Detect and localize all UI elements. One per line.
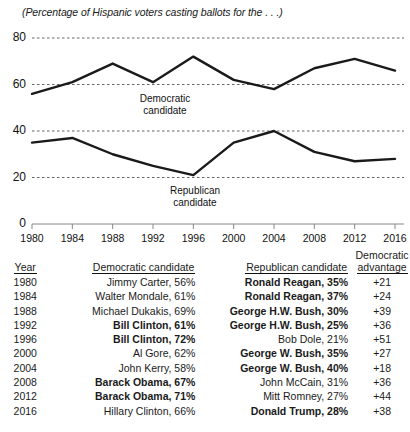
cell-democratic-candidate: Bill Clinton, 72% bbox=[50, 332, 201, 346]
cell-republican-candidate: George H.W. Bush, 30% bbox=[201, 304, 354, 318]
table-row: 1984Walter Mondale, 61%Ronald Reagan, 37… bbox=[0, 289, 410, 303]
cell-republican-candidate: George H.W. Bush, 25% bbox=[201, 318, 354, 332]
x-axis-label-1996: 1996 bbox=[173, 232, 213, 244]
table-body: 1980Jimmy Carter, 56%Ronald Reagan, 35%+… bbox=[0, 275, 410, 418]
cell-republican-candidate: Donald Trump, 28% bbox=[201, 404, 354, 418]
cell-democratic-advantage: +38 bbox=[354, 404, 410, 418]
y-axis-label-0: 0 bbox=[0, 216, 26, 230]
header-democratic-advantage: Democratic advantage bbox=[354, 250, 410, 275]
cell-republican-candidate: Ronald Reagan, 37% bbox=[201, 289, 354, 303]
cell-democratic-candidate: Bill Clinton, 61% bbox=[50, 318, 201, 332]
cell-republican-candidate: Ronald Reagan, 35% bbox=[201, 275, 354, 289]
y-axis-label-40: 40 bbox=[0, 123, 26, 137]
header-republican-candidate: Republican candidate bbox=[201, 250, 354, 275]
table-header-row: Year Democratic candidate Republican can… bbox=[0, 250, 410, 275]
annotation-line-1: Democratic bbox=[105, 93, 225, 105]
y-axis-label-20: 20 bbox=[0, 170, 26, 184]
cell-republican-candidate: Bob Dole, 21% bbox=[201, 332, 354, 346]
cell-democratic-candidate: Hillary Clinton, 66% bbox=[50, 404, 201, 418]
chart-plot-area bbox=[0, 0, 410, 250]
table-row: 2004John Kerry, 58%George W. Bush, 40%+1… bbox=[0, 361, 410, 375]
table-row: 2016Hillary Clinton, 66%Donald Trump, 28… bbox=[0, 404, 410, 418]
y-axis-label-80: 80 bbox=[0, 30, 26, 44]
x-axis-label-1988: 1988 bbox=[93, 232, 133, 244]
cell-democratic-advantage: +36 bbox=[354, 318, 410, 332]
cell-democratic-advantage: +51 bbox=[354, 332, 410, 346]
x-axis-label-2004: 2004 bbox=[254, 232, 294, 244]
cell-year: 1988 bbox=[0, 304, 50, 318]
cell-democratic-candidate: Barack Obama, 71% bbox=[50, 389, 201, 403]
cell-year: 2012 bbox=[0, 389, 50, 403]
annotation-republican: Republicancandidate bbox=[135, 185, 255, 208]
table-head: Year Democratic candidate Republican can… bbox=[0, 250, 410, 275]
cell-democratic-candidate: John Kerry, 58% bbox=[50, 361, 201, 375]
x-axis-label-1984: 1984 bbox=[52, 232, 92, 244]
cell-year: 1992 bbox=[0, 318, 50, 332]
x-axis-label-1992: 1992 bbox=[133, 232, 173, 244]
cell-democratic-advantage: +39 bbox=[354, 304, 410, 318]
y-axis-label-60: 60 bbox=[0, 77, 26, 91]
cell-democratic-candidate: Walter Mondale, 61% bbox=[50, 289, 201, 303]
election-results-table: Year Democratic candidate Republican can… bbox=[0, 250, 410, 418]
header-democratic-candidate: Democratic candidate bbox=[50, 250, 201, 275]
cell-democratic-candidate: Barack Obama, 67% bbox=[50, 375, 201, 389]
annotation-line-1: Republican bbox=[135, 185, 255, 197]
cell-year: 2004 bbox=[0, 361, 50, 375]
cell-democratic-advantage: +27 bbox=[354, 346, 410, 360]
cell-republican-candidate: John McCain, 31% bbox=[201, 375, 354, 389]
cell-democratic-advantage: +44 bbox=[354, 389, 410, 403]
cell-year: 2016 bbox=[0, 404, 50, 418]
cell-democratic-candidate: Michael Dukakis, 69% bbox=[50, 304, 201, 318]
table-row: 1996Bill Clinton, 72%Bob Dole, 21%+51 bbox=[0, 332, 410, 346]
table-row: 1992Bill Clinton, 61%George H.W. Bush, 2… bbox=[0, 318, 410, 332]
data-table-container: Year Democratic candidate Republican can… bbox=[0, 250, 410, 418]
table-row: 2000Al Gore, 62%George W. Bush, 35%+27 bbox=[0, 346, 410, 360]
cell-republican-candidate: George W. Bush, 40% bbox=[201, 361, 354, 375]
x-axis-label-2008: 2008 bbox=[294, 232, 334, 244]
cell-republican-candidate: George W. Bush, 35% bbox=[201, 346, 354, 360]
cell-democratic-advantage: +21 bbox=[354, 275, 410, 289]
table-row: 2012Barack Obama, 71%Mitt Romney, 27%+44 bbox=[0, 389, 410, 403]
annotation-line-2: candidate bbox=[105, 105, 225, 117]
x-axis-label-2000: 2000 bbox=[214, 232, 254, 244]
line-chart-svg bbox=[0, 0, 410, 250]
cell-democratic-advantage: +24 bbox=[354, 289, 410, 303]
cell-republican-candidate: Mitt Romney, 27% bbox=[201, 389, 354, 403]
cell-democratic-advantage: +36 bbox=[354, 375, 410, 389]
annotation-democratic: Democraticcandidate bbox=[105, 93, 225, 116]
cell-year: 1984 bbox=[0, 289, 50, 303]
cell-year: 2008 bbox=[0, 375, 50, 389]
cell-year: 1980 bbox=[0, 275, 50, 289]
cell-year: 2000 bbox=[0, 346, 50, 360]
cell-democratic-candidate: Jimmy Carter, 56% bbox=[50, 275, 201, 289]
series-line-republican bbox=[32, 131, 395, 175]
x-axis-label-1980: 1980 bbox=[12, 232, 52, 244]
header-year: Year bbox=[0, 250, 50, 275]
cell-year: 1996 bbox=[0, 332, 50, 346]
table-row: 1988Michael Dukakis, 69%George H.W. Bush… bbox=[0, 304, 410, 318]
table-row: 2008Barack Obama, 67%John McCain, 31%+36 bbox=[0, 375, 410, 389]
x-axis-label-2012: 2012 bbox=[335, 232, 375, 244]
series-line-democratic bbox=[32, 57, 395, 94]
x-axis-label-2016: 2016 bbox=[375, 232, 410, 244]
cell-democratic-candidate: Al Gore, 62% bbox=[50, 346, 201, 360]
cell-democratic-advantage: +18 bbox=[354, 361, 410, 375]
table-row: 1980Jimmy Carter, 56%Ronald Reagan, 35%+… bbox=[0, 275, 410, 289]
annotation-line-2: candidate bbox=[135, 197, 255, 209]
